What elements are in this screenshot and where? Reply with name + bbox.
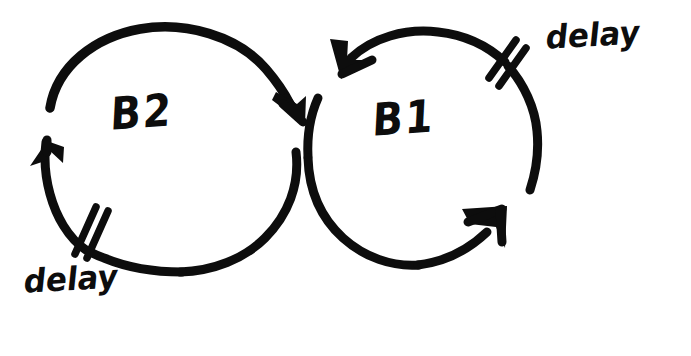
b2-arc-left — [45, 142, 86, 250]
b2-arc-right — [180, 152, 297, 272]
b1-arc-right — [508, 66, 538, 190]
delay-tick-b2 — [75, 207, 108, 258]
b1-arc-left-upper — [308, 98, 318, 157]
b1-arc-left-lower — [308, 158, 419, 265]
delay-label-b2: delay — [22, 257, 120, 300]
node-label-b2: B2 — [109, 84, 174, 140]
delay-label-b1: delay — [544, 13, 642, 56]
b1-arc-bottom — [418, 232, 487, 265]
node-label-b1: B1 — [371, 90, 436, 146]
diagram-canvas: B2 B1 delay delay — [0, 0, 691, 356]
